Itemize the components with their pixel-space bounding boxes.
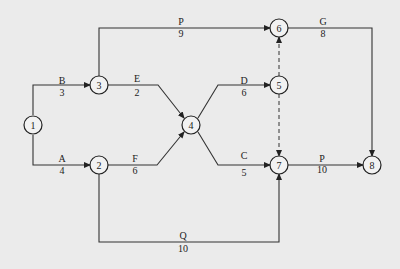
node-5: 5 (270, 76, 288, 94)
edge-2-7 (99, 174, 279, 242)
node-3: 3 (90, 76, 108, 94)
edge-2-4 (108, 132, 184, 165)
edge-label-duration: 3 (60, 87, 65, 98)
edge-label-name: Q (179, 230, 187, 241)
svg-text:7: 7 (277, 160, 282, 171)
node-4: 4 (182, 116, 200, 134)
edge-label-duration: 5 (242, 167, 247, 178)
edge-label-name: P (178, 16, 184, 27)
edge-label-name: P (319, 153, 325, 164)
edge-label-duration: 6 (133, 165, 138, 176)
svg-text:3: 3 (97, 80, 102, 91)
node-2: 2 (90, 156, 108, 174)
svg-text:1: 1 (31, 120, 36, 131)
edge-label-name: D (240, 75, 247, 86)
edge-3-6 (99, 28, 270, 76)
edge-label-name: C (241, 150, 248, 161)
svg-text:4: 4 (189, 120, 194, 131)
svg-text:2: 2 (97, 160, 102, 171)
edge-label-duration: 9 (179, 28, 184, 39)
node-6: 6 (270, 19, 288, 37)
edge-label-name: E (134, 73, 140, 84)
node-8: 8 (363, 156, 381, 174)
edge-label-name: G (319, 16, 326, 27)
network-diagram: B 3 A 4 P 9 E 2 F 6 Q 10 D 6 C 5 G 8 P 1… (0, 0, 400, 269)
edge-label-duration: 6 (242, 87, 247, 98)
edge-4-7 (198, 132, 270, 165)
edge-label-duration: 10 (317, 164, 327, 175)
edge-label-duration: 10 (178, 243, 188, 254)
node-7: 7 (270, 156, 288, 174)
edge-3-4 (108, 85, 184, 118)
nodes: 1 2 3 4 5 6 7 8 (24, 19, 381, 174)
edges (33, 28, 372, 242)
edge-label-duration: 2 (135, 87, 140, 98)
svg-text:8: 8 (370, 160, 375, 171)
edge-label-name: B (59, 75, 66, 86)
edge-4-5 (198, 85, 270, 118)
svg-text:6: 6 (277, 23, 282, 34)
node-1: 1 (24, 116, 42, 134)
edge-6-8 (288, 28, 372, 156)
edge-label-name: F (132, 153, 138, 164)
edge-label-duration: 8 (321, 28, 326, 39)
edge-label-name: A (58, 153, 66, 164)
edge-label-duration: 4 (60, 165, 65, 176)
svg-text:5: 5 (277, 80, 282, 91)
